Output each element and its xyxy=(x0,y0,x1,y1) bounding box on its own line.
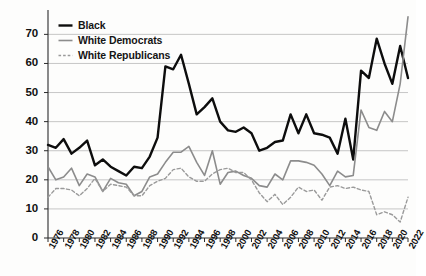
y-tick-label: 50 xyxy=(8,86,38,98)
y-tick-label: 60 xyxy=(8,56,38,68)
y-tick-label: 70 xyxy=(8,27,38,39)
y-tick-label: 30 xyxy=(8,144,38,156)
legend-label: White Republicans xyxy=(78,49,170,61)
y-tick-label: 10 xyxy=(8,202,38,214)
series-line-white-republicans xyxy=(48,168,408,222)
legend-item-black: Black xyxy=(58,18,170,32)
y-tick-label: 40 xyxy=(8,115,38,127)
legend-swatch-icon xyxy=(58,21,73,30)
legend-item-white-democrats: White Democrats xyxy=(58,33,170,47)
legend-label: White Democrats xyxy=(78,34,162,46)
y-tick-label: 20 xyxy=(8,173,38,185)
legend-label: Black xyxy=(78,19,106,31)
legend-swatch-icon xyxy=(58,51,73,60)
chart-legend: BlackWhite DemocratsWhite Republicans xyxy=(58,18,170,63)
legend-item-white-republicans: White Republicans xyxy=(58,48,170,62)
legend-swatch-icon xyxy=(58,36,73,45)
y-tick-label: 0 xyxy=(8,231,38,243)
